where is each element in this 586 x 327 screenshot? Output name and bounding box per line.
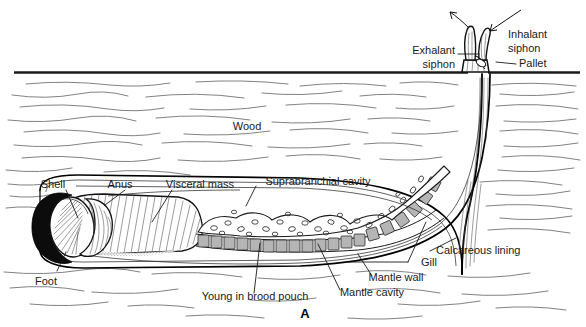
label-mantle-wall: Mantle wall: [368, 271, 423, 283]
label-inhalant-siphon-line2: siphon: [508, 42, 540, 54]
label-visceral-mass: Visceral mass: [166, 178, 235, 190]
label-pallet: Pallet: [519, 57, 547, 69]
label-shell: Shell: [41, 178, 65, 190]
label-inhalant-siphon-line1: Inhalant: [508, 28, 547, 40]
siphon-pair: [450, 10, 521, 72]
exhalant-siphon: [465, 26, 476, 60]
label-wood: Wood: [233, 120, 262, 132]
figure-shipworm-anatomy: Wood Shell Anus Visceral mass Suprabranc…: [0, 0, 586, 327]
panel-letter: A: [300, 306, 310, 321]
leader-pallet: [496, 62, 516, 64]
inhalant-siphon: [479, 28, 490, 60]
label-anus: Anus: [107, 178, 133, 190]
diagram-canvas: Wood Shell Anus Visceral mass Suprabranc…: [0, 0, 586, 327]
label-calcareous-lining: Calcareous lining: [436, 244, 520, 256]
label-exhalant-siphon-line1: Exhalant: [412, 44, 455, 56]
arrow-out-of-exhalant-siphon: [450, 12, 469, 28]
label-gill: Gill: [421, 256, 437, 268]
label-mantle-cavity: Mantle cavity: [340, 286, 405, 298]
label-foot: Foot: [35, 275, 57, 287]
label-exhalant-siphon-line2: siphon: [423, 58, 455, 70]
label-young-in-brood-pouch: Young in brood pouch: [202, 290, 309, 302]
label-suprabranchial-cavity: Suprabranchial cavity: [265, 175, 371, 187]
